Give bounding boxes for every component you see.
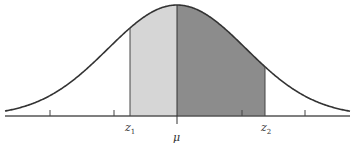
z2-label: z2 <box>260 121 271 136</box>
shaded-areas <box>130 5 265 116</box>
z1-label: z1 <box>124 121 135 136</box>
normal-curve-diagram: z1 μ z2 <box>0 0 354 146</box>
dark-shaded-region <box>177 5 265 116</box>
mu-label: μ <box>173 131 180 144</box>
